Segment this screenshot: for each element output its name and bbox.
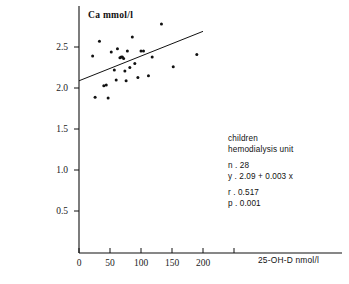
data-point bbox=[133, 62, 136, 65]
y-tick-label: 2.0 bbox=[56, 83, 68, 93]
statistics-annotation: children hemodialysis unit n . 28 y . 2.… bbox=[228, 134, 293, 209]
data-point bbox=[126, 50, 129, 53]
x-tick-label: 100 bbox=[134, 258, 149, 268]
data-point bbox=[128, 66, 131, 69]
scatter-plot-figure: Ca mmol/l 0 50 100 150 200 bbox=[0, 0, 349, 284]
data-point bbox=[91, 55, 94, 58]
x-axis-ticks bbox=[79, 248, 234, 253]
regression-line bbox=[79, 31, 203, 80]
data-point bbox=[147, 74, 150, 77]
x-tick-label: 50 bbox=[105, 258, 115, 268]
x-tick-label: 150 bbox=[165, 258, 180, 268]
data-point bbox=[105, 83, 108, 86]
x-tick-label: 0 bbox=[77, 258, 82, 268]
data-point bbox=[160, 22, 163, 25]
data-point bbox=[172, 65, 175, 68]
data-point bbox=[113, 69, 116, 72]
data-point bbox=[123, 69, 126, 72]
annotation-equation: y . 2.09 + 0.003 x bbox=[228, 172, 293, 183]
annotation-r: r . 0.517 bbox=[228, 188, 293, 199]
y-tick-label: 2.5 bbox=[56, 42, 68, 52]
y-tick-label: 1.0 bbox=[56, 165, 68, 175]
annotation-group-line2: hemodialysis unit bbox=[228, 145, 293, 156]
data-point bbox=[115, 78, 118, 81]
data-point bbox=[151, 55, 154, 58]
y-axis-ticks bbox=[74, 47, 79, 211]
data-point bbox=[125, 79, 128, 82]
data-point bbox=[107, 97, 110, 100]
annotation-group-line1: children bbox=[228, 134, 293, 145]
data-point bbox=[136, 76, 139, 79]
axes bbox=[79, 6, 342, 253]
data-point bbox=[142, 50, 145, 53]
data-point bbox=[94, 96, 97, 99]
x-tick-label: 200 bbox=[196, 258, 211, 268]
data-point bbox=[195, 53, 198, 56]
annotation-p: p . 0.001 bbox=[228, 199, 293, 210]
fit-line bbox=[79, 31, 203, 80]
x-axis-title: 25-OH-D nmol/l bbox=[258, 255, 319, 265]
data-point bbox=[116, 47, 119, 50]
data-point bbox=[122, 57, 125, 60]
data-point bbox=[110, 50, 113, 53]
y-tick-label: 0.5 bbox=[56, 206, 68, 216]
data-points bbox=[91, 22, 198, 99]
y-axis-tick-labels: 0.5 1.0 1.5 2.0 2.5 bbox=[56, 42, 68, 216]
y-tick-label: 1.5 bbox=[56, 124, 68, 134]
annotation-n: n . 28 bbox=[228, 161, 293, 172]
x-axis-tick-labels: 0 50 100 150 200 bbox=[77, 258, 211, 268]
plot-canvas: 0 50 100 150 200 0.5 1.0 1.5 2.0 2.5 bbox=[0, 0, 349, 284]
data-point bbox=[131, 36, 134, 39]
data-point bbox=[98, 40, 101, 43]
